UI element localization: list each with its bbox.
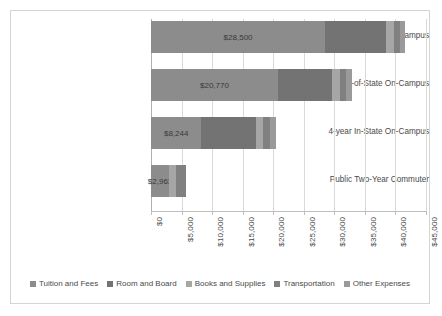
chart-frame: Private Non-profit On-Campus4-year Out-o… <box>10 10 430 304</box>
stacked-bar: $20,770 <box>151 69 352 101</box>
x-axis-tick-label: $15,000 <box>247 217 256 247</box>
bar-segment <box>278 69 332 101</box>
gridline <box>426 19 427 211</box>
x-axis-line <box>151 211 427 212</box>
stacked-bar: $28,500 <box>151 21 405 53</box>
bar-value-label: $28,500 <box>224 33 253 42</box>
x-axis-tick <box>334 211 335 215</box>
x-axis-tick <box>273 211 274 215</box>
legend-swatch-icon <box>186 281 192 287</box>
bar-segment <box>332 69 339 101</box>
x-axis-tick <box>151 211 152 215</box>
bar-segment <box>201 117 255 149</box>
bar-segment: $28,500 <box>151 21 325 53</box>
legend-swatch-icon <box>274 281 280 287</box>
legend-swatch-icon <box>107 281 113 287</box>
bar-segment <box>340 69 347 101</box>
x-axis-tick-label: $35,000 <box>369 217 378 247</box>
bar-segment <box>386 21 393 53</box>
legend-item-label: Tuition and Fees <box>39 279 98 288</box>
bar-segment <box>176 165 186 197</box>
stacked-bar: $8,244 <box>151 117 276 149</box>
legend-item-label: Other Expenses <box>353 279 410 288</box>
bar-segment <box>346 69 352 101</box>
plot-area: $28,500$20,770$8,244$2,963 <box>151 19 426 211</box>
legend-swatch-icon <box>344 281 350 287</box>
legend-item[interactable]: Room and Board <box>107 279 176 288</box>
x-axis-tick <box>304 211 305 215</box>
x-axis-tick-label: $5,000 <box>186 217 195 242</box>
bar-segment <box>256 117 263 149</box>
bar-segment <box>325 21 386 53</box>
bar-segment <box>263 117 270 149</box>
x-axis-tick-label: $40,000 <box>399 217 408 247</box>
x-axis-tick-label: $30,000 <box>338 217 347 247</box>
x-axis-tick <box>243 211 244 215</box>
legend-item-label: Books and Supplies <box>195 279 266 288</box>
legend-item-label: Transportation <box>283 279 334 288</box>
stacked-bar: $2,963 <box>151 165 186 197</box>
x-axis-tick-label: $20,000 <box>277 217 286 247</box>
legend-item[interactable]: Books and Supplies <box>186 279 266 288</box>
x-axis-tick <box>365 211 366 215</box>
bar-segment <box>169 165 176 197</box>
bar-segment <box>400 21 406 53</box>
bar-segment: $20,770 <box>151 69 278 101</box>
x-axis-tick-label: $45,000 <box>430 217 439 247</box>
x-axis-tick-label: $25,000 <box>308 217 317 247</box>
bar-segment: $8,244 <box>151 117 201 149</box>
x-axis-tick <box>182 211 183 215</box>
bar-value-label: $20,770 <box>200 81 229 90</box>
x-axis-tick-label: $0 <box>155 217 164 226</box>
legend-item[interactable]: Transportation <box>274 279 334 288</box>
legend-item[interactable]: Tuition and Fees <box>30 279 98 288</box>
x-axis-tick <box>212 211 213 215</box>
legend-swatch-icon <box>30 281 36 287</box>
legend-item-label: Room and Board <box>116 279 176 288</box>
chart-legend: Tuition and FeesRoom and BoardBooks and … <box>11 279 429 288</box>
x-axis-tick <box>395 211 396 215</box>
legend-item[interactable]: Other Expenses <box>344 279 410 288</box>
bar-segment <box>270 117 276 149</box>
x-axis-tick-label: $10,000 <box>216 217 225 247</box>
bar-value-label: $8,244 <box>164 129 188 138</box>
x-axis-tick <box>426 211 427 215</box>
bar-segment: $2,963 <box>151 165 169 197</box>
